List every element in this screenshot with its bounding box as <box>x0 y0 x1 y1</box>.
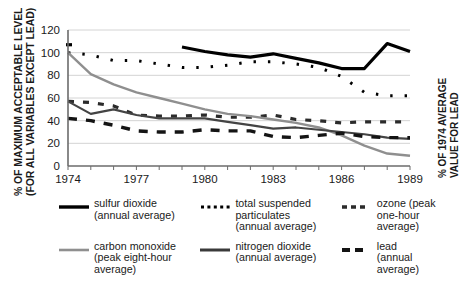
legend-label-line2: (annual average) <box>94 210 175 222</box>
y-axis-tick-label: 120 <box>41 24 60 36</box>
series-line <box>68 101 410 123</box>
series-line <box>68 118 410 137</box>
y-axis-tick-label: 100 <box>41 47 60 59</box>
plot-area: 020406080100120 197419771980198319861989 <box>0 0 430 196</box>
y-axis-tick-labels: 020406080100120 <box>41 24 60 172</box>
chart-figure: % OF MAXIMUM ACCEPTABLE LEVEL (FOR ALL V… <box>0 0 460 305</box>
y-axis-tick-label: 20 <box>47 137 60 149</box>
legend-swatch-carbon-monoxide-icon <box>58 244 92 256</box>
legend-label-line3: (annual average) <box>235 221 316 233</box>
legend-label-line1: sulfur dioxide <box>94 197 157 209</box>
x-axis-tick-label: 1989 <box>397 173 423 185</box>
y-axis-title-right-line2: VALUE FOR LEAD <box>449 92 460 178</box>
x-axis-tick-label: 1983 <box>260 173 286 185</box>
series-line <box>182 44 410 69</box>
legend-swatch-ozone-icon <box>341 201 375 213</box>
legend-label-line3: average) <box>94 264 176 276</box>
series-line <box>68 53 410 96</box>
legend-row-2: carbon monoxide (peak eight-hour average… <box>58 241 458 276</box>
x-axis-tick-labels: 197419771980198319861989 <box>55 173 423 185</box>
chart-legend: sulfur dioxide (annual average) total su… <box>58 198 458 276</box>
y-axis-tick-label: 60 <box>47 92 60 104</box>
legend-item-lead: lead (annual average) <box>341 241 452 276</box>
y-axis-title-right-line1: % OF 1974 AVERAGE <box>437 78 448 178</box>
legend-label-total-suspended-particulates: total suspended particulates (annual ave… <box>235 198 316 233</box>
x-axis-tick-label: 1980 <box>192 173 218 185</box>
legend-label-line1: carbon monoxide <box>94 240 176 252</box>
legend-label-ozone: ozone (peak one-hour average) <box>377 198 452 233</box>
legend-label-lead: lead (annual average) <box>377 241 452 276</box>
legend-label-carbon-monoxide: carbon monoxide (peak eight-hour average… <box>94 241 176 276</box>
chart-canvas: 020406080100120 197419771980198319861989 <box>0 0 430 196</box>
legend-label-line1: ozone (peak <box>377 197 436 209</box>
legend-label-line1: lead <box>377 240 397 252</box>
legend-swatch-nitrogen-dioxide-icon <box>199 244 233 256</box>
y-axis-tick-label: 40 <box>47 115 60 127</box>
series-line <box>68 101 410 138</box>
legend-row-1: sulfur dioxide (annual average) total su… <box>58 198 458 233</box>
legend-item-sulfur-dioxide: sulfur dioxide (annual average) <box>58 198 193 221</box>
legend-label-line2: (annual average) <box>377 252 452 275</box>
data-series-group <box>66 44 410 156</box>
legend-label-nitrogen-dioxide: nitrogen dioxide (annual average) <box>235 241 316 264</box>
legend-item-total-suspended-particulates: total suspended particulates (annual ave… <box>199 198 334 233</box>
y-axis-tick-label: 0 <box>54 160 60 172</box>
legend-label-line1: total suspended <box>235 197 310 209</box>
legend-item-ozone: ozone (peak one-hour average) <box>341 198 452 233</box>
y-axis-tick-label: 80 <box>47 69 60 81</box>
x-axis-tick-label: 1977 <box>124 173 150 185</box>
legend-swatch-sulfur-dioxide-icon <box>58 201 92 213</box>
legend-item-carbon-monoxide: carbon monoxide (peak eight-hour average… <box>58 241 193 276</box>
legend-swatch-tsp-icon <box>199 201 233 213</box>
legend-label-line2: (annual average) <box>235 252 316 264</box>
x-axis-tick-label: 1986 <box>329 173 355 185</box>
x-axis-tick-label: 1974 <box>55 173 81 185</box>
legend-label-line1: nitrogen dioxide <box>235 240 310 252</box>
legend-label-line2: one-hour average) <box>377 210 452 233</box>
legend-item-nitrogen-dioxide: nitrogen dioxide (annual average) <box>199 241 334 264</box>
legend-swatch-lead-icon <box>341 244 375 256</box>
legend-label-sulfur-dioxide: sulfur dioxide (annual average) <box>94 198 175 221</box>
